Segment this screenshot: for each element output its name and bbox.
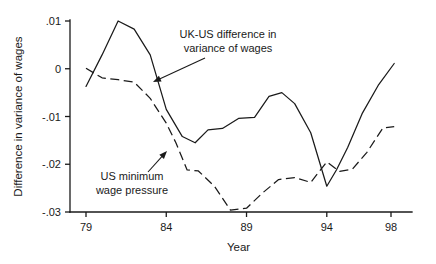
chart-figure: UK-US difference invariance of wagesUS m… [0,0,436,264]
x-tick-label: 98 [385,221,397,233]
annotation-label-line: UK-US difference in [179,28,276,40]
line-chart: UK-US difference invariance of wagesUS m… [0,0,436,264]
x-tick-label: 84 [160,221,172,233]
x-tick-label: 89 [240,221,252,233]
us-min-wage-annotation: US minimumwage pressure [95,151,168,196]
chart-annotations: UK-US difference invariance of wagesUS m… [95,28,277,196]
y-tick-label: -.03 [42,206,61,218]
y-tick-label: 0 [55,63,61,75]
annotation-label-line: US minimum [101,170,164,182]
uk-us-annotation: UK-US difference invariance of wages [153,28,277,82]
annotation-leader-line [158,58,205,79]
y-tick-label: .01 [46,15,61,27]
y-tick-label: -.01 [42,111,61,123]
x-tick-label: 94 [321,221,333,233]
x-axis-title: Year [227,241,250,253]
y-tick-label: -.02 [42,158,61,170]
x-tick-label: 79 [80,221,92,233]
annotation-label-line: wage pressure [95,184,168,196]
y-axis-title: Difference in variance of wages [12,36,24,196]
annotation-label-line: variance of wages [184,42,273,54]
